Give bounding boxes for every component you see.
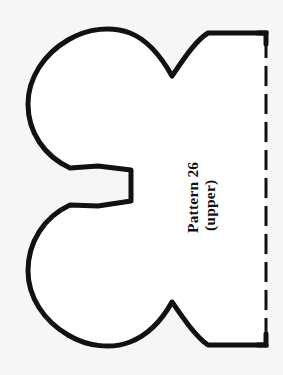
pattern-page: Pattern 26 (upper) <box>0 0 283 375</box>
pattern-fill <box>28 29 266 346</box>
pattern-diagram <box>0 0 283 375</box>
